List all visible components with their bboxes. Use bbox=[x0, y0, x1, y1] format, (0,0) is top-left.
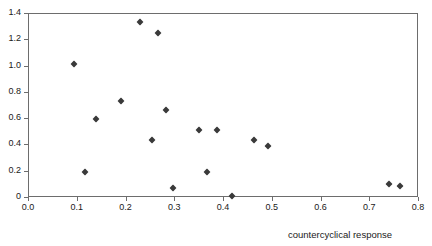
y-axis-tick bbox=[24, 39, 28, 40]
y-axis-tick-label: 1.0 bbox=[8, 61, 21, 70]
x-axis-tick bbox=[272, 197, 273, 201]
scatter-chart-figure: 00.20.40.60.81.01.21.4 0.00.10.20.30.40.… bbox=[0, 0, 432, 246]
x-axis-tick bbox=[321, 197, 322, 201]
y-axis-tick bbox=[24, 92, 28, 93]
x-axis-tick bbox=[28, 197, 29, 201]
x-axis-tick bbox=[174, 197, 175, 201]
y-axis-tick-label: 0 bbox=[16, 192, 21, 201]
y-axis-tick-label: 0.2 bbox=[8, 166, 21, 175]
y-axis-tick bbox=[24, 66, 28, 67]
x-axis-tick-label: 0.4 bbox=[210, 203, 236, 212]
y-axis-tick bbox=[24, 118, 28, 119]
x-axis-tick bbox=[77, 197, 78, 201]
x-axis-tick-label: 0.5 bbox=[259, 203, 285, 212]
y-axis-tick-label: 0.8 bbox=[8, 87, 21, 96]
x-axis-tick bbox=[369, 197, 370, 201]
x-axis-title: countercyclical response bbox=[288, 229, 392, 240]
x-axis-tick bbox=[223, 197, 224, 201]
y-axis-tick-label: 1.4 bbox=[8, 8, 21, 17]
x-axis-tick-label: 0.8 bbox=[405, 203, 431, 212]
y-axis-tick bbox=[24, 144, 28, 145]
y-axis-tick bbox=[24, 13, 28, 14]
x-axis-tick-label: 0.0 bbox=[15, 203, 41, 212]
x-axis-tick bbox=[126, 197, 127, 201]
x-axis-tick bbox=[418, 197, 419, 201]
y-axis-tick-label: 0.6 bbox=[8, 113, 21, 122]
x-axis-tick-label: 0.3 bbox=[161, 203, 187, 212]
x-axis-tick-label: 0.6 bbox=[308, 203, 334, 212]
x-axis-tick-label: 0.2 bbox=[113, 203, 139, 212]
y-axis-tick bbox=[24, 171, 28, 172]
y-axis-tick-label: 1.2 bbox=[8, 34, 21, 43]
y-axis-tick-label: 0.4 bbox=[8, 139, 21, 148]
x-axis-tick-label: 0.1 bbox=[64, 203, 90, 212]
x-axis-tick-label: 0.7 bbox=[356, 203, 382, 212]
